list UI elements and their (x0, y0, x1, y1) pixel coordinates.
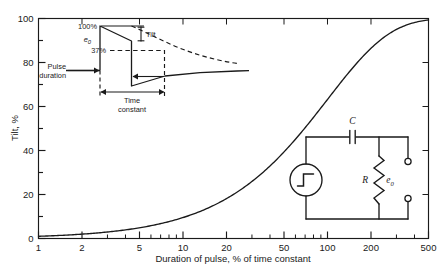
output-terminal-top (405, 158, 411, 164)
x-axis-tick-label: 50 (279, 242, 290, 253)
x-axis-tick-label: 5 (137, 242, 142, 253)
x-axis-tick-label: 500 (421, 242, 437, 253)
y-axis-tick-label: 80 (23, 57, 34, 68)
y-axis-label: Tilt, % (9, 114, 20, 141)
level-100-label: 100% (78, 22, 97, 31)
y-axis-tick-label: 0 (28, 233, 33, 244)
y-axis-tick-label: 20 (23, 189, 34, 200)
time-constant-label-line1: Time (124, 96, 140, 105)
figure-root: 020406080100 125102050100200500 Duration… (0, 0, 447, 274)
x-axis-tick-label: 20 (221, 242, 232, 253)
y-axis-tick-label: 100 (18, 13, 34, 24)
chart-svg: 020406080100 125102050100200500 Duration… (0, 0, 447, 274)
x-axis-tick-label: 100 (320, 242, 336, 253)
time-constant-label-line2: constant (118, 105, 146, 114)
capacitor-label: C (349, 116, 356, 126)
y-axis-tick-label: 60 (23, 101, 34, 112)
x-axis-tick-label: 1 (36, 242, 41, 253)
pulse-duration-label-line2: duration (39, 71, 66, 80)
x-axis-tick-label: 2 (79, 242, 84, 253)
level-37-label: 37% (91, 46, 106, 55)
tilt-label: Tilt (146, 30, 156, 39)
x-axis-tick-label: 200 (363, 242, 379, 253)
resistor-label: R (361, 175, 368, 185)
output-terminal-bottom (405, 195, 411, 201)
pulse-duration-label-line1: Pulse (48, 62, 67, 71)
x-axis-tick-label: 10 (178, 242, 189, 253)
y-axis-tick-label: 40 (23, 145, 34, 156)
x-axis-label: Duration of pulse, % of time constant (155, 253, 311, 264)
